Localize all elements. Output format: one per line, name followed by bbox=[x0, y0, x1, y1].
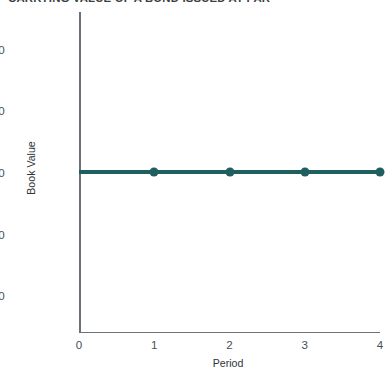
y-tick-label: 1,040 bbox=[0, 42, 5, 55]
chart-figure: CARRYING VALUE OF A BOND ISSUED AT PAR 9… bbox=[0, 0, 390, 377]
x-tick-label: 0 bbox=[64, 338, 94, 351]
x-tick-label: 3 bbox=[290, 338, 320, 351]
y-tick-label: 960 bbox=[0, 289, 5, 302]
x-axis-title-wrap: Period bbox=[0, 357, 390, 369]
data-point-marker bbox=[376, 168, 385, 177]
x-tick-label: 2 bbox=[215, 338, 245, 351]
chart-title: CARRYING VALUE OF A BOND ISSUED AT PAR bbox=[8, 0, 386, 5]
data-point-marker bbox=[225, 168, 234, 177]
x-axis-title: Period bbox=[213, 357, 244, 369]
y-tick-label: 1,020 bbox=[0, 104, 5, 117]
x-tick-label: 4 bbox=[365, 338, 390, 351]
y-tick-label: 980 bbox=[0, 227, 5, 240]
x-axis-line bbox=[79, 332, 380, 334]
data-point-marker bbox=[150, 168, 159, 177]
x-tick-label: 1 bbox=[139, 338, 169, 351]
data-point-marker bbox=[300, 168, 309, 177]
y-axis-title: Book Value bbox=[25, 141, 37, 194]
y-tick-label: 1,000 bbox=[0, 166, 5, 179]
